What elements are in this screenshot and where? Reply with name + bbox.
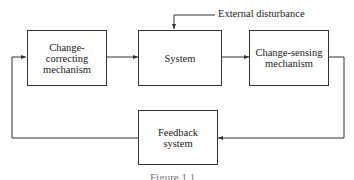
change-sensing-mechanism-box: Change-sensing mechanism [249,30,329,86]
node-label: Change-sensing mechanism [250,47,328,69]
change-correcting-mechanism-box: Change-correcting mechanism [27,30,107,86]
node-label: Feedback system [153,127,203,149]
external-disturbance-label: External disturbance [218,8,305,19]
feedback-system-box: Feedback system [138,110,218,165]
node-label: System [165,53,196,64]
system-box: System [138,30,222,86]
figure-caption: Figure 1.1 [150,171,195,180]
node-label: Change-correcting mechanism [28,42,106,75]
